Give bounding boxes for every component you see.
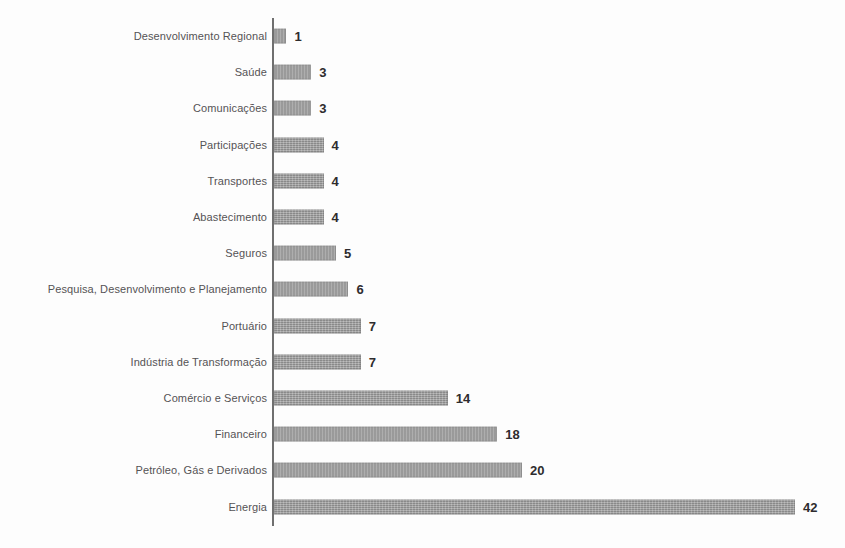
bar-row: Comunicações3	[0, 90, 845, 126]
bar	[274, 246, 336, 261]
bar	[274, 318, 361, 333]
bar-value-label: 1	[294, 30, 301, 43]
category-label: Seguros	[225, 247, 267, 259]
category-label: Indústria de Transformação	[130, 356, 267, 368]
bar-value-label: 7	[369, 355, 376, 368]
bar	[274, 137, 324, 152]
bar-row: Portuário7	[0, 308, 845, 344]
bar-value-label: 20	[530, 464, 544, 477]
bar-wrapper: 1	[274, 29, 302, 44]
bar-value-label: 4	[332, 211, 339, 224]
bar-value-label: 7	[369, 319, 376, 332]
bar-row: Desenvolvimento Regional1	[0, 18, 845, 54]
category-label: Transportes	[208, 175, 267, 187]
bar-wrapper: 7	[274, 318, 376, 333]
bar-wrapper: 18	[274, 427, 520, 442]
bar-wrapper: 7	[274, 354, 376, 369]
bar	[274, 210, 324, 225]
bar-wrapper: 20	[274, 463, 545, 478]
bar	[274, 391, 448, 406]
bar	[274, 65, 311, 80]
category-label: Comunicações	[193, 102, 267, 114]
bar	[274, 173, 324, 188]
bar-row: Energia42	[0, 489, 845, 525]
bar	[274, 282, 348, 297]
category-label: Comércio e Serviços	[164, 392, 267, 404]
bar	[274, 463, 522, 478]
bar-wrapper: 6	[274, 282, 364, 297]
bar-row: Indústria de Transformação7	[0, 344, 845, 380]
bar-wrapper: 3	[274, 65, 326, 80]
bar-value-label: 4	[332, 174, 339, 187]
bar-wrapper: 5	[274, 246, 351, 261]
bar-value-label: 42	[803, 500, 817, 513]
bar-wrapper: 4	[274, 210, 339, 225]
bar	[274, 29, 286, 44]
bar-wrapper: 3	[274, 101, 326, 116]
bar-row: Petróleo, Gás e Derivados20	[0, 452, 845, 488]
bar	[274, 101, 311, 116]
bar-value-label: 6	[356, 283, 363, 296]
category-label: Portuário	[221, 320, 267, 332]
plot-area: Desenvolvimento Regional1Saúde3Comunicaç…	[0, 0, 845, 548]
category-label: Financeiro	[215, 428, 267, 440]
category-label: Saúde	[235, 66, 267, 78]
bar-wrapper: 4	[274, 173, 339, 188]
bar-chart: Desenvolvimento Regional1Saúde3Comunicaç…	[0, 0, 845, 548]
bar-value-label: 3	[319, 102, 326, 115]
bar-value-label: 14	[456, 392, 470, 405]
bar-row: Comércio e Serviços14	[0, 380, 845, 416]
bar-value-label: 4	[332, 138, 339, 151]
category-label: Pesquisa, Desenvolvimento e Planejamento	[48, 283, 267, 295]
bar-row: Abastecimento4	[0, 199, 845, 235]
bar-value-label: 5	[344, 247, 351, 260]
bar-wrapper: 4	[274, 137, 339, 152]
category-label: Desenvolvimento Regional	[134, 30, 267, 42]
bar-row: Seguros5	[0, 235, 845, 271]
bar-row: Financeiro18	[0, 416, 845, 452]
bar	[274, 499, 795, 514]
bar-row: Pesquisa, Desenvolvimento e Planejamento…	[0, 271, 845, 307]
category-label: Participações	[200, 139, 267, 151]
bar	[274, 427, 497, 442]
bar-row: Participações4	[0, 127, 845, 163]
category-label: Abastecimento	[193, 211, 267, 223]
bar-row: Transportes4	[0, 163, 845, 199]
bar-value-label: 18	[505, 428, 519, 441]
bar-wrapper: 42	[274, 499, 817, 514]
category-label: Petróleo, Gás e Derivados	[135, 464, 267, 476]
category-label: Energia	[228, 501, 267, 513]
bar-row: Saúde3	[0, 54, 845, 90]
bar-wrapper: 14	[274, 391, 470, 406]
bar-value-label: 3	[319, 66, 326, 79]
bar	[274, 354, 361, 369]
